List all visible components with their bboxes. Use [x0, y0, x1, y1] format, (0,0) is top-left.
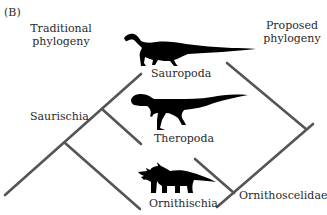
traditional-ornithischia-branch	[65, 143, 140, 209]
traditional-phylogeny-title: Traditional phylogeny	[26, 22, 96, 48]
traditional-title-line2: phylogeny	[26, 35, 96, 48]
traditional-trunk-line	[5, 74, 141, 195]
panel-label: (B)	[4, 6, 21, 19]
taxon-label-sauropoda: Sauropoda	[151, 67, 211, 80]
traditional-title-line1: Traditional	[26, 22, 96, 35]
clade-label-ornithoscelidae: Ornithoscelidae	[239, 189, 327, 202]
sauropod-silhouette-icon	[124, 34, 256, 66]
proposed-title-line1: Proposed	[262, 19, 322, 32]
traditional-theropoda-branch	[102, 109, 141, 144]
proposed-title-line2: phylogeny	[262, 32, 322, 45]
taxon-label-ornithischia: Ornithischia	[149, 197, 218, 210]
theropod-silhouette-icon	[131, 94, 248, 130]
taxon-label-theropoda: Theropoda	[154, 132, 214, 145]
proposed-phylogeny-title: Proposed phylogeny	[262, 19, 322, 45]
clade-label-saurischia: Saurischia	[30, 110, 89, 123]
